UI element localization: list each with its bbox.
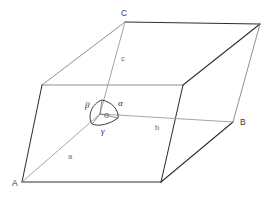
- angle-label-gamma: γ: [101, 126, 105, 136]
- origin-label-O: O: [104, 112, 109, 119]
- vertex-label-A: A: [12, 178, 18, 188]
- parallelepiped-canvas: A B C a b c α β γ O: [0, 0, 269, 197]
- top-face-back-left-edge: [42, 22, 125, 85]
- vertex-label-B: B: [240, 117, 246, 127]
- back-right-vertical-edge: [233, 24, 260, 122]
- angle-label-alpha: α: [118, 98, 123, 108]
- front-right-vertical-edge: [161, 85, 183, 182]
- top-face-back-right-edge: [125, 22, 260, 24]
- angle-label-beta: β: [84, 100, 90, 110]
- vertex-label-C: C: [121, 8, 127, 18]
- axis-label-a: a: [68, 152, 73, 161]
- unit-cell-figure: A B C a b c α β γ O: [0, 0, 269, 197]
- axis-label-c: c: [121, 54, 125, 63]
- top-face-front-right-edge: [183, 24, 260, 85]
- axis-label-b: b: [155, 123, 159, 132]
- right-face-bottom-edge: [161, 122, 233, 182]
- lattice-vector-b-line: [100, 114, 233, 122]
